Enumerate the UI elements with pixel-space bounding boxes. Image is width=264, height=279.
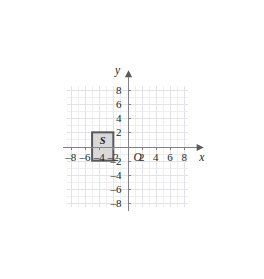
x-tick-label: –8	[64, 151, 77, 163]
y-tick-label: 6	[116, 98, 122, 110]
x-tick-label: 8	[181, 151, 187, 163]
y-tick-label: 4	[116, 112, 122, 124]
x-tick-label: 6	[167, 151, 173, 163]
origin-label: O	[134, 151, 143, 163]
coordinate-grid-svg: S –8–6–4–22468 8642–2–4–6–8 O x y	[0, 0, 264, 279]
coordinate-plane-figure: S –8–6–4–22468 8642–2–4–6–8 O x y	[0, 0, 264, 279]
y-tick-label: –6	[110, 183, 123, 195]
y-tick-label: 8	[116, 84, 122, 96]
x-axis-label: x	[198, 151, 205, 163]
y-tick-label: –8	[110, 197, 123, 209]
y-tick-label: –4	[110, 169, 123, 181]
x-tick-label: –4	[93, 151, 106, 163]
y-axis-label: y	[114, 64, 121, 77]
y-tick-label: 2	[116, 126, 122, 138]
x-tick-label: –6	[79, 151, 92, 163]
x-tick-label: 4	[153, 151, 159, 163]
y-tick-label: –2	[110, 155, 122, 167]
shape-s-label: S	[100, 135, 106, 146]
